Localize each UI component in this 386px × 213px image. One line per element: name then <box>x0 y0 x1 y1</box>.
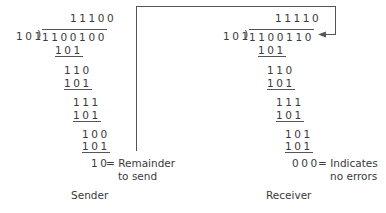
receiver-remainder: 000 <box>292 157 320 169</box>
receiver-quotient: 11110 <box>275 12 321 24</box>
sender-dividend: 1100100 <box>42 29 107 43</box>
sender-step: 101 <box>73 109 101 122</box>
sender-step: 101 <box>64 77 92 90</box>
receiver-step: 101 <box>276 109 304 122</box>
sender-step: 110 <box>64 64 92 76</box>
receiver-dividend: 1100110 <box>249 29 314 43</box>
receiver-step: 101 <box>285 140 313 153</box>
connector-right-vertical <box>335 6 336 35</box>
sender-quotient: 11100 <box>70 12 116 24</box>
connector-top-horizontal <box>136 6 336 7</box>
receiver-step: 101 <box>267 77 295 90</box>
sender-remainder-note: = Remainder <box>106 157 175 169</box>
sender-step: 100 <box>82 128 110 140</box>
sender-step: 101 <box>55 44 83 57</box>
arrowhead-left-icon <box>318 31 326 38</box>
receiver-remainder-note-2: no errors <box>330 170 377 182</box>
receiver-step: 110 <box>267 64 295 76</box>
sender-remainder-note-2: to send <box>118 170 157 182</box>
sender-step: 111 <box>73 96 101 108</box>
receiver-step: 111 <box>276 96 304 108</box>
receiver-division-bracket: ) <box>244 29 248 41</box>
sender-title: Sender <box>71 189 108 201</box>
receiver-step: 101 <box>258 44 286 57</box>
connector-left-vertical <box>136 6 137 151</box>
receiver-step: 101 <box>285 128 313 140</box>
sender-division-bracket: ) <box>37 29 41 41</box>
receiver-remainder-note: = Indicates <box>318 157 378 169</box>
sender-step: 101 <box>82 140 110 153</box>
receiver-title: Receiver <box>266 189 311 201</box>
